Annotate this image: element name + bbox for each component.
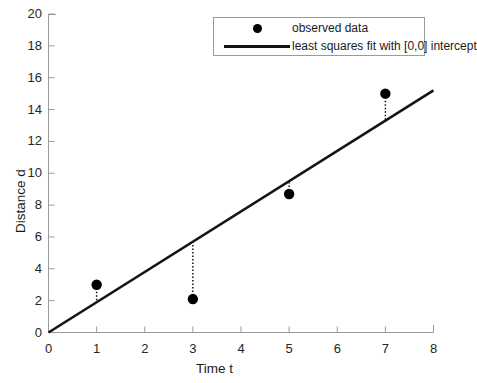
x-tick-label: 2: [125, 342, 165, 355]
x-tick-label: 8: [414, 342, 454, 355]
x-tick-label: 4: [221, 342, 261, 355]
x-axis-label: Time t: [196, 362, 233, 376]
chart-legend: observed data least squares fit with [0,…: [213, 17, 425, 56]
y-tick-label: 4: [0, 262, 42, 275]
observed-data-points: [91, 88, 390, 304]
y-tick-label: 12: [0, 134, 42, 147]
y-tick-label: 20: [0, 7, 42, 20]
y-tick-label: 2: [0, 294, 42, 307]
y-axis-ticks: [49, 14, 55, 333]
y-tick-label: 16: [0, 71, 42, 84]
y-tick-label: 0: [0, 326, 42, 339]
y-axis-label: Distance d: [14, 169, 28, 233]
x-axis-ticks: [49, 327, 434, 333]
x-tick-label: 0: [29, 342, 69, 355]
residual-lines: [97, 94, 386, 303]
legend-entry-fit-line: least squares fit with [0,0] intercept: [214, 37, 424, 55]
x-tick-label: 5: [269, 342, 309, 355]
least-squares-fit-line: [49, 90, 434, 332]
legend-label-observed-data: observed data: [292, 21, 368, 35]
legend-entry-observed-data: observed data: [214, 19, 424, 37]
x-tick-label: 3: [173, 342, 213, 355]
x-tick-label: 7: [365, 342, 405, 355]
legend-dot-marker-icon: [253, 24, 262, 33]
y-tick-label: 14: [0, 103, 42, 116]
legend-line-marker-icon: [224, 45, 290, 48]
y-tick-label: 18: [0, 39, 42, 52]
legend-label-fit-line: least squares fit with [0,0] intercept: [292, 39, 477, 53]
x-tick-label: 1: [77, 342, 117, 355]
axes-frame: [48, 14, 434, 333]
x-tick-label: 6: [317, 342, 357, 355]
